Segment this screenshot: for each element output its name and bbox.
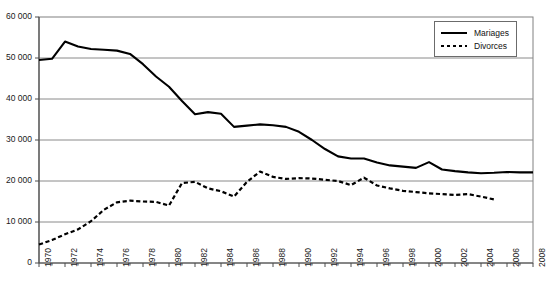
legend-item-mariages: Mariages bbox=[441, 26, 509, 39]
x-axis-tick-label: 1992 bbox=[329, 248, 339, 267]
x-axis-tick-label: 2002 bbox=[459, 248, 469, 267]
x-axis-tick-label: 2000 bbox=[433, 248, 443, 267]
x-axis-tick-label: 1994 bbox=[355, 248, 365, 267]
x-axis-tick-label: 1988 bbox=[277, 248, 287, 267]
y-axis-tick-label: 30 000 bbox=[0, 134, 32, 144]
chart-legend: Mariages Divorces bbox=[434, 21, 517, 57]
x-axis-tick-label: 1990 bbox=[303, 248, 313, 267]
legend-item-divorces: Divorces bbox=[441, 39, 509, 52]
legend-solid-line-icon bbox=[441, 29, 467, 37]
x-axis-tick-label: 1972 bbox=[69, 248, 79, 267]
x-axis-tick-label: 1996 bbox=[381, 248, 391, 267]
legend-label-divorces: Divorces bbox=[474, 41, 507, 51]
y-axis-tick-label: 10 000 bbox=[0, 216, 32, 226]
legend-label-mariages: Mariages bbox=[474, 28, 509, 38]
y-axis-tick-label: 50 000 bbox=[0, 52, 32, 62]
x-axis-tick-label: 1970 bbox=[43, 248, 53, 267]
x-axis-tick-label: 1986 bbox=[251, 248, 261, 267]
x-axis-tick-label: 1982 bbox=[199, 248, 209, 267]
x-axis-tick-label: 2004 bbox=[485, 248, 495, 267]
x-axis-tick-label: 1974 bbox=[95, 248, 105, 267]
x-axis-tick-label: 1976 bbox=[121, 248, 131, 267]
y-axis-tick-label: 60 000 bbox=[0, 11, 32, 21]
legend-dashed-line-icon bbox=[441, 42, 467, 50]
x-axis-tick-label: 1984 bbox=[225, 248, 235, 267]
y-axis-tick-label: 20 000 bbox=[0, 175, 32, 185]
y-axis-tick-label: 40 000 bbox=[0, 93, 32, 103]
x-axis-tick-label: 1998 bbox=[407, 248, 417, 267]
x-axis-tick-label: 2008 bbox=[537, 248, 547, 267]
x-axis-tick-label: 1980 bbox=[173, 248, 183, 267]
y-axis-tick-label: 0 bbox=[0, 257, 32, 267]
x-axis-tick-label: 2006 bbox=[511, 248, 521, 267]
x-axis-tick-label: 1978 bbox=[147, 248, 157, 267]
